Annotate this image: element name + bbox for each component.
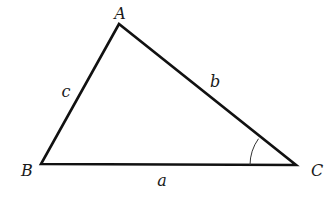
vertex-label-a: A	[112, 4, 126, 23]
triangle-shape	[41, 24, 296, 165]
triangle-diagram: A B C a b c	[0, 0, 335, 197]
side-label-c: c	[62, 82, 71, 101]
side-label-a: a	[157, 171, 167, 190]
angle-c-arc	[250, 139, 259, 165]
vertex-label-b: B	[20, 161, 33, 180]
vertex-label-c: C	[311, 161, 323, 180]
side-label-b: b	[210, 72, 220, 91]
